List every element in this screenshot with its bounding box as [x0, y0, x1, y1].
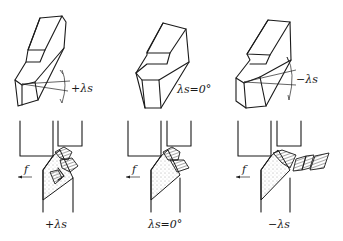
label-top-zero: λs=0° — [177, 83, 211, 96]
feed-label-positive: f — [24, 163, 28, 176]
label-top-positive: +λs — [71, 82, 93, 95]
feed-label-negative: f — [242, 163, 246, 176]
tool-isometric-negative — [236, 20, 296, 108]
label-top-negative: −λs — [296, 73, 318, 86]
feed-label-zero: f — [132, 163, 136, 176]
tool-inclination-diagram — [0, 0, 343, 241]
tool-isometric-positive — [15, 16, 70, 106]
label-bottom-negative: −λs — [268, 218, 290, 231]
cutting-view-negative — [236, 121, 329, 212]
label-bottom-positive: +λs — [45, 218, 67, 231]
label-bottom-zero: λs=0° — [148, 218, 182, 231]
